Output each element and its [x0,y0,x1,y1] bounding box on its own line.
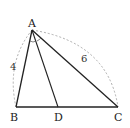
label-b: B [10,111,18,124]
label-d: D [54,111,63,124]
side-ab [16,30,32,107]
triangle-diagram: A B D C 4 6 [0,0,130,128]
label-a: A [27,17,37,30]
angle-mark-dac [37,38,41,41]
angle-mark-bad [30,41,36,42]
label-c: C [114,111,122,124]
length-ac: 6 [81,53,87,64]
length-ab: 4 [10,61,16,72]
